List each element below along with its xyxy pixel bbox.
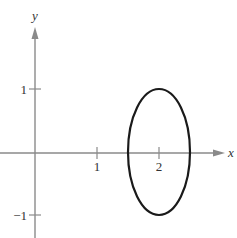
- y-tick-label-1: 1: [21, 82, 28, 97]
- x-axis-label: x: [227, 145, 234, 160]
- y-tick-label-neg1: −1: [13, 208, 27, 223]
- x-tick-label-1: 1: [94, 159, 101, 174]
- y-axis-arrow-icon: [32, 27, 39, 39]
- x-axis-arrow-icon: [213, 150, 225, 157]
- y-axis-label: y: [30, 8, 38, 23]
- ellipse-plot: y x 1 2 1 −1: [0, 0, 237, 238]
- x-tick-label-2: 2: [156, 159, 163, 174]
